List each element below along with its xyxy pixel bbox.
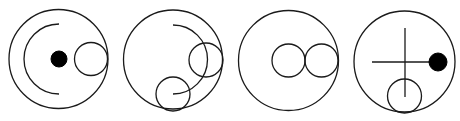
- panel-3-small-circle-left: [272, 44, 305, 77]
- panel-4-filled-dot: [429, 53, 447, 71]
- panel-3-outer-circle: [239, 11, 339, 111]
- panel-3: [239, 11, 339, 111]
- panel-2-right-arc: [173, 25, 208, 94]
- panel-4: [354, 11, 455, 113]
- circle-sequence-diagram: [0, 0, 460, 121]
- panel-3-small-circle-right: [305, 44, 338, 77]
- panel-1-small-circle: [75, 43, 108, 76]
- panel-2: [124, 10, 224, 111]
- panel-1: [9, 10, 108, 109]
- panel-1-filled-dot: [51, 51, 67, 67]
